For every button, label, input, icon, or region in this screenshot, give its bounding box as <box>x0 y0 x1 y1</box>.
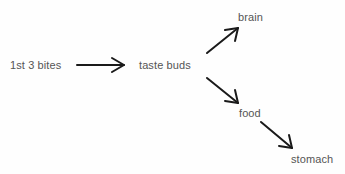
arrow-taste-to-brain-icon <box>207 28 238 53</box>
arrow-taste-to-food-icon <box>207 78 238 103</box>
node-food: food <box>239 106 261 120</box>
arrow-bites-to-taste-icon <box>77 58 124 72</box>
node-bites: 1st 3 bites <box>10 58 61 72</box>
node-taste-buds: taste buds <box>139 58 191 72</box>
flow-diagram: 1st 3 bites taste buds brain food stomac… <box>0 0 345 174</box>
arrow-food-to-stomach-icon <box>261 122 292 148</box>
node-stomach: stomach <box>291 152 333 166</box>
node-brain: brain <box>238 10 263 24</box>
arrows-layer <box>0 0 345 174</box>
